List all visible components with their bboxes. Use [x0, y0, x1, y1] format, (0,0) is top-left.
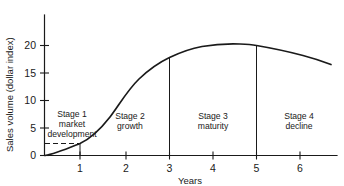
stage-2-label-line1: Stage 2: [115, 111, 145, 121]
stage-1-label-line3: development: [47, 129, 97, 139]
y-axis-title: Sales volume (dollar index): [4, 37, 15, 152]
stage-4-label-line2: decline: [285, 121, 312, 131]
y-tick-label-10: 10: [24, 94, 36, 106]
x-tick-label-1: 1: [77, 162, 83, 174]
y-tick-label-20: 20: [24, 39, 36, 51]
y-tick-label-0: 0: [30, 149, 36, 161]
x-axis-title: Years: [178, 175, 202, 186]
stage-1-label-line2: market: [59, 119, 86, 129]
y-tick-label-5: 5: [30, 122, 36, 134]
x-tick-label-6: 6: [297, 162, 303, 174]
y-tick-label-15: 15: [24, 67, 36, 79]
chart-canvas: 0 5 10 15 20 1 2 3 4 5 6 Years Sales vol…: [0, 0, 344, 186]
x-tick-label-5: 5: [254, 162, 260, 174]
x-tick-label-4: 4: [210, 162, 216, 174]
stage-4-label-line1: Stage 4: [284, 111, 314, 121]
x-tick-label-2: 2: [123, 162, 129, 174]
stage-3-label-line1: Stage 3: [198, 111, 228, 121]
x-tick-label-3: 3: [167, 162, 173, 174]
stage-1-label-line1: Stage 1: [57, 109, 87, 119]
product-life-cycle-chart: 0 5 10 15 20 1 2 3 4 5 6 Years Sales vol…: [0, 0, 344, 186]
stage-2-label-line2: growth: [117, 121, 143, 131]
stage-3-label-line2: maturity: [198, 121, 229, 131]
